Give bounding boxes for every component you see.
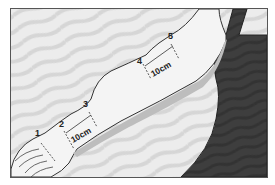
- point-label-4: 4: [137, 56, 142, 66]
- point-label-5: 5: [168, 31, 173, 41]
- illustration-frame: 1 2 3 4 5 10cm 10cm: [10, 8, 268, 178]
- point-label-3: 3: [83, 99, 88, 109]
- arm-illustration: 1 2 3 4 5 10cm 10cm: [11, 9, 267, 177]
- point-label-2: 2: [59, 119, 64, 129]
- point-label-1: 1: [35, 128, 40, 138]
